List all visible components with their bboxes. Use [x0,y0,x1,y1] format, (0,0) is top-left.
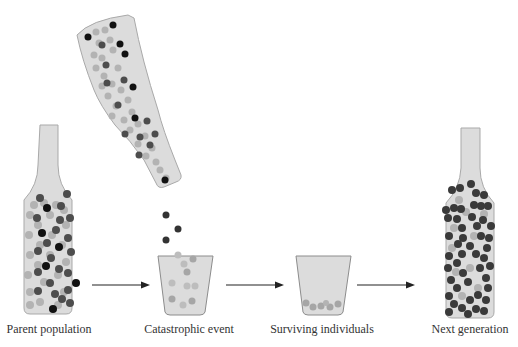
arrow-parent-to-catastrophe [92,282,150,289]
falling-balls [163,212,182,244]
label-surviving-individuals: Surviving individuals [270,322,374,337]
pouring-bottle [77,15,181,188]
catastrophe-cup [158,252,213,316]
survivors-cup [296,256,351,315]
label-catastrophic-event: Catastrophic event [144,322,234,337]
next-generation-bottle [442,128,495,318]
arrow-survivors-to-next [357,282,415,289]
label-next-generation: Next generation [432,322,509,337]
arrow-catastrophe-to-survivors [226,282,284,289]
bottleneck-diagram: Parent population Catastrophic event Sur… [0,0,518,347]
parent-population-bottle [24,125,80,314]
label-parent-population: Parent population [7,322,92,337]
